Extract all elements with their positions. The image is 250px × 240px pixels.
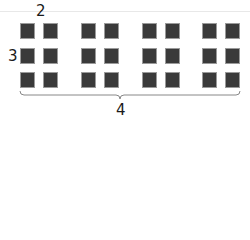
label-groups: 4 — [116, 103, 126, 118]
